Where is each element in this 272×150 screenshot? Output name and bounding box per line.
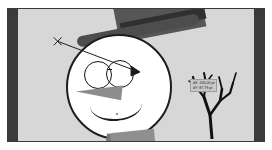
page-edge-bar-right xyxy=(254,9,264,141)
bare-branch-icon[interactable] xyxy=(186,63,240,139)
tooltip-dy: dY: 87.79 pt xyxy=(193,86,214,91)
editor-canvas-window: dX: 206.00 pt dY: 87.79 pt xyxy=(0,0,272,150)
page-edge-bar-left xyxy=(8,9,18,141)
tooltip-dx: dX: 206.00 pt xyxy=(193,81,214,86)
smile-dot-icon xyxy=(116,113,118,115)
measurement-tooltip: dX: 206.00 pt dY: 87.79 pt xyxy=(190,79,217,92)
artboard[interactable]: dX: 206.00 pt dY: 87.79 pt xyxy=(18,9,254,141)
spectacle-bridge-icon xyxy=(108,69,112,70)
document-frame: dX: 206.00 pt dY: 87.79 pt xyxy=(7,8,265,142)
